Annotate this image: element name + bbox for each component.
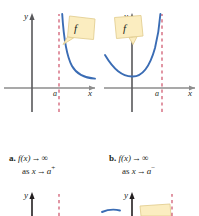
- panel-d-y-axis-label: y: [124, 191, 128, 200]
- panel-a-x-axis-label: x: [88, 89, 92, 98]
- y-axis-arrowhead: [29, 13, 34, 20]
- panel-b-plot: y x a f: [100, 0, 199, 112]
- panel-b-limit: ∞: [142, 153, 148, 163]
- y-axis-arrowhead: [29, 192, 34, 199]
- panel-a-caption-line-2: as x→a+: [0, 164, 99, 177]
- callout-shape-icon: [62, 14, 96, 45]
- panel-b-caption: b. f(x)→∞ as x→a−: [100, 152, 199, 177]
- panel-a-as: as: [22, 166, 30, 176]
- panel-a-callout: f: [62, 14, 96, 45]
- panel-a-arrow-2: →: [36, 166, 47, 176]
- panel-a-limit: ∞: [42, 153, 48, 163]
- panel-a-caption: a. f(x)→∞ as x→a+: [0, 152, 99, 177]
- panel-b-arrow-2: →: [136, 166, 147, 176]
- panel-b-sign: −: [151, 164, 155, 172]
- panel-d: y: [100, 188, 199, 216]
- panel-c-svg: [0, 188, 99, 216]
- panel-a-tag: a.: [9, 153, 16, 163]
- panel-b-caption-line-2: as x→a−: [100, 164, 199, 177]
- panel-b-function-label: f: [123, 23, 126, 34]
- panel-b-as: as: [122, 166, 130, 176]
- panel-b-caption-line-1: b. f(x)→∞: [100, 152, 199, 164]
- panel-b-tag: b.: [109, 153, 116, 163]
- panel-b-callout: f: [113, 14, 147, 45]
- panel-a-asymptote-label: a: [53, 90, 57, 98]
- asymptote-figure-panel-group: y x a f a. f(x)→∞ as x→a+: [0, 0, 199, 216]
- panel-a-y-axis-label: y: [24, 12, 28, 21]
- callout-shape-icon: [113, 14, 147, 45]
- callout-shape-icon: [140, 204, 171, 216]
- panel-a-caption-line-1: a. f(x)→∞: [0, 152, 99, 164]
- panel-b-asymptote-label: a: [155, 90, 159, 98]
- y-axis-arrowhead: [129, 192, 134, 199]
- panel-d-svg: [100, 188, 199, 216]
- panel-c-y-axis-label: y: [24, 191, 28, 200]
- function-curve: [102, 210, 120, 212]
- panel-a-plot: y x a f: [0, 0, 99, 112]
- panel-a-function-label: f: [74, 23, 77, 34]
- panel-a-sign: +: [51, 164, 55, 172]
- panel-b-arrow-1: →: [131, 153, 142, 163]
- panel-a: y x a f: [0, 0, 99, 150]
- panel-b: y x a f: [100, 0, 199, 150]
- panel-b-x-axis-label: x: [188, 89, 192, 98]
- panel-a-fx: f(x): [18, 153, 31, 163]
- panel-c: y: [0, 188, 99, 216]
- panel-a-arrow-1: →: [31, 153, 42, 163]
- panel-b-fx: f(x): [119, 153, 132, 163]
